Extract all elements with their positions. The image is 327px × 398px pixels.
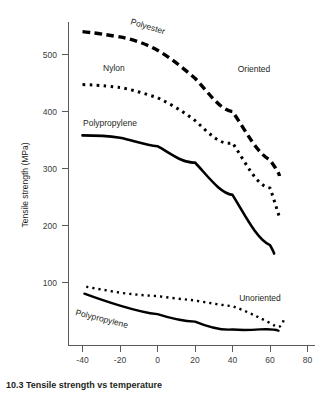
polypropylene-unoriented-label: Polypropylene (75, 307, 130, 330)
polypropylene-label: Polypropylene (83, 118, 137, 128)
series-polypropylene-oriented (83, 135, 275, 253)
figure-caption: 10.3 Tensile strength vs temperature (6, 380, 327, 398)
series-polyester-oriented (83, 32, 280, 177)
y-ticklabel-100: 100 (43, 278, 57, 288)
nylon-label: Nylon (103, 63, 125, 73)
series-nylon-oriented (83, 85, 280, 218)
x-ticklabel-60: 60 (265, 355, 275, 365)
tensile-strength-chart: 500 400 300 200 100 -40 -20 0 20 40 (0, 0, 327, 372)
x-ticklabel-80: 80 (303, 355, 313, 365)
y-ticklabel-300: 300 (43, 164, 57, 174)
polyester-label: Polyester (129, 16, 166, 36)
figure-caption-text: 10.3 Tensile strength vs temperature (6, 380, 327, 390)
x-ticklabel-20: 20 (190, 355, 200, 365)
x-ticklabel-0: 0 (155, 355, 160, 365)
unoriented-group-label: Unoriented (239, 293, 281, 303)
figure-root: 500 400 300 200 100 -40 -20 0 20 40 (0, 0, 327, 398)
x-ticks-group: -40 -20 0 20 40 60 80 (76, 346, 312, 366)
y-ticklabel-200: 200 (43, 221, 57, 231)
series-group (83, 32, 284, 331)
oriented-group-label: Oriented (238, 64, 271, 74)
y-ticklabel-400: 400 (43, 107, 57, 117)
x-ticklabel-minus40: -40 (76, 355, 89, 365)
y-axis-title: Tensile strength (MPa) (20, 142, 30, 227)
x-ticklabel-minus20: -20 (114, 355, 127, 365)
y-ticklabel-500: 500 (43, 50, 57, 60)
chart-figure: 500 400 300 200 100 -40 -20 0 20 40 (0, 0, 327, 372)
x-ticklabel-40: 40 (228, 355, 238, 365)
y-ticks-group: 500 400 300 200 100 (43, 50, 69, 288)
